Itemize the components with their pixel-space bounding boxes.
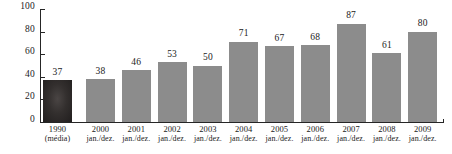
y-axis-tick-label: 100 [20,2,35,12]
y-axis-tick-label: 20 [25,92,35,102]
bar-group[interactable]: 38 [86,9,115,122]
y-axis-tick-label: 40 [25,70,35,80]
bar-group[interactable]: 67 [265,9,294,122]
bar-value-label: 80 [400,19,445,29]
bar[interactable] [301,45,330,122]
bar-group[interactable]: 71 [229,9,258,122]
y-axis-tick-label: 60 [25,47,35,57]
x-axis-line [40,122,444,123]
x-axis-label: 2009jan./dez. [401,124,445,144]
x-axis-label-year: 2009 [401,124,445,134]
bar[interactable] [43,80,72,122]
bar[interactable] [86,79,115,122]
bar[interactable] [337,24,366,122]
bar-group[interactable]: 80 [408,9,437,122]
bar-group[interactable]: 61 [372,9,401,122]
bar[interactable] [229,42,258,122]
bar-group[interactable]: 37 [43,9,72,122]
bar-group[interactable]: 53 [158,9,187,122]
bar-chart: 020406080100 3738465350716768876180 1990… [0,0,452,154]
x-axis-label-year: 1990 [36,124,80,134]
bar[interactable] [408,32,437,122]
bar[interactable] [158,62,187,122]
bar-group[interactable]: 68 [301,9,330,122]
bar-value-label: 38 [78,67,123,77]
y-axis-tick-label: 80 [25,25,35,35]
bar[interactable] [193,66,222,123]
bar-group[interactable]: 87 [337,9,366,122]
x-axis-label-period: (média) [36,134,80,144]
bar[interactable] [265,46,294,122]
x-axis-labels: 1990(média)2000jan./dez.2001jan./dez.200… [40,124,444,152]
bar-group[interactable]: 46 [122,9,151,122]
bar[interactable] [122,70,151,122]
x-axis-label: 1990(média) [36,124,80,144]
bar-value-label: 61 [364,41,409,51]
bar-value-label: 37 [35,68,80,78]
bar-value-label: 50 [185,53,230,63]
plot-area: 3738465350716768876180 [40,9,444,122]
x-axis-label-period: jan./dez. [401,134,445,144]
bar-group[interactable]: 50 [193,9,222,122]
y-axis-tick-mark [41,122,45,123]
y-axis-tick-label: 0 [30,115,35,125]
bar-value-label: 68 [293,33,338,43]
bar[interactable] [372,53,401,122]
bar-value-label: 87 [329,11,374,21]
